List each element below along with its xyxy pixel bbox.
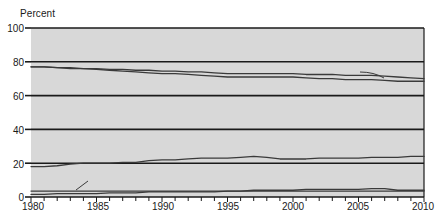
chart-container: Percent 100 80 60 40 20 0 1980 1985 1990… — [0, 0, 444, 224]
chart-plot-svg — [0, 0, 444, 224]
plot-background — [31, 28, 424, 197]
